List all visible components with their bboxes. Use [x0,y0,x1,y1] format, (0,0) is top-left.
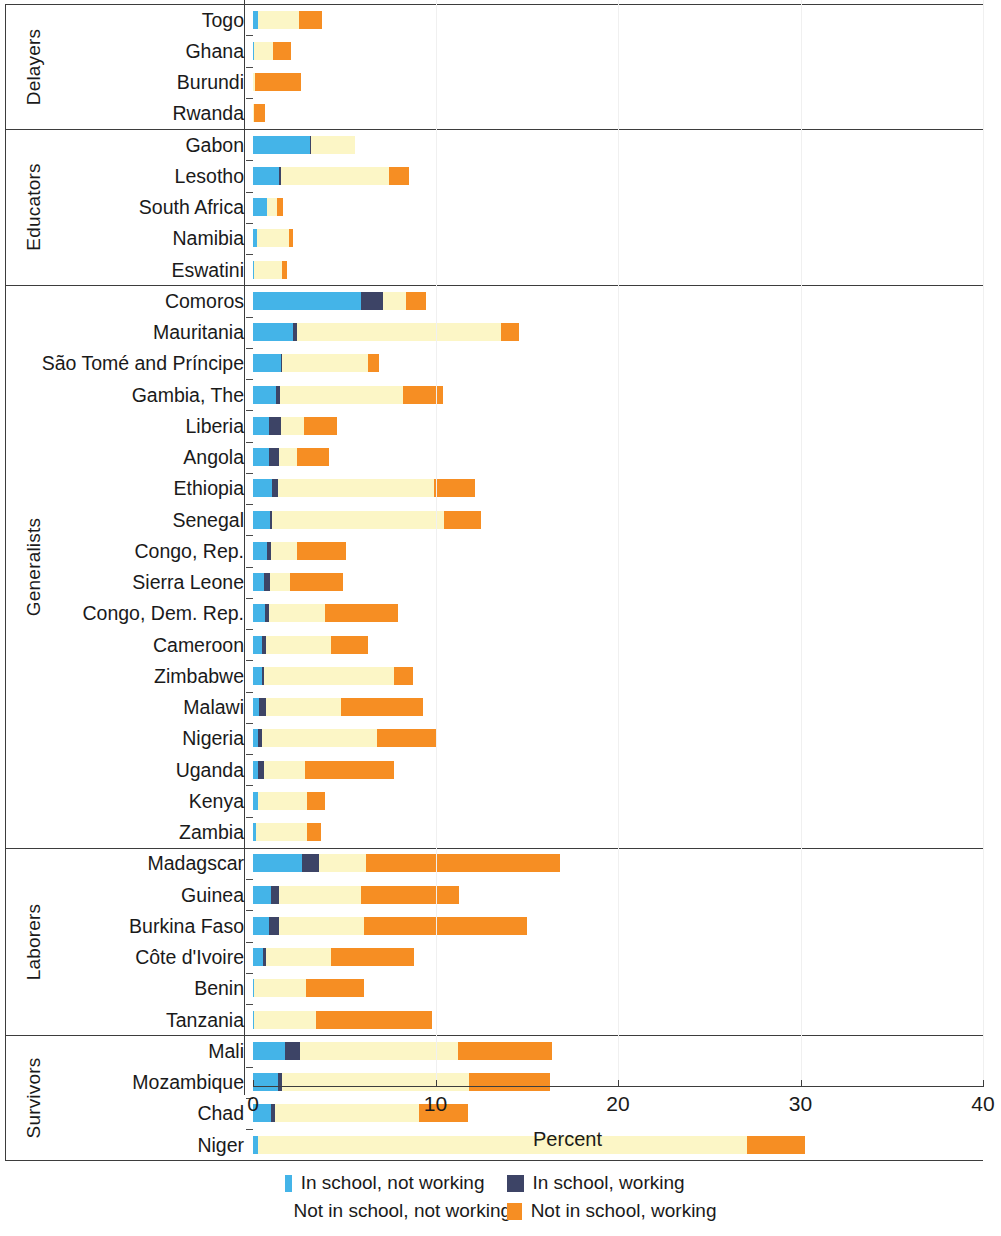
stacked-bar[interactable] [253,1011,432,1029]
stacked-bar[interactable] [253,1073,550,1091]
chart-row[interactable]: Mali [0,1035,1001,1066]
bar-segment [290,573,343,591]
bar-segment [304,417,337,435]
stacked-bar[interactable] [253,323,519,341]
chart-row[interactable]: Sierra Leone [0,567,1001,598]
chart-row[interactable]: Guinea [0,879,1001,910]
chart-row[interactable]: Ghana [0,35,1001,66]
stacked-bar[interactable] [253,11,322,29]
stacked-bar[interactable] [253,573,343,591]
chart-row[interactable]: Côte d'Ivoire [0,942,1001,973]
chart-row[interactable]: Cameroon [0,629,1001,660]
stacked-bar[interactable] [253,667,413,685]
chart-row[interactable]: Malawi [0,692,1001,723]
chart-row[interactable]: Congo, Dem. Rep. [0,598,1001,629]
chart-row[interactable]: Tanzania [0,1004,1001,1035]
stacked-bar[interactable] [253,854,560,872]
stacked-bar[interactable] [253,604,398,622]
stacked-bar[interactable] [253,636,368,654]
chart-row[interactable]: Eswatini [0,254,1001,285]
x-axis-tick [253,1080,254,1087]
stacked-bar[interactable] [253,292,426,310]
bar-segment [262,729,377,747]
chart-row[interactable]: Nigeria [0,723,1001,754]
x-axis-tick-label: 0 [247,1092,259,1116]
chart-row[interactable]: Mozambique [0,1067,1001,1098]
legend-item-in-school-working[interactable]: In school, working [507,1172,717,1194]
bar-segment [279,886,361,904]
stacked-bar[interactable] [253,823,321,841]
bar-segment [253,354,281,372]
stacked-bar[interactable] [253,198,283,216]
bar-segment [311,136,355,154]
chart-row[interactable]: Burkina Faso [0,910,1001,941]
legend-item-in-school-not-working[interactable]: In school, not working [285,1172,485,1194]
category-label: Ghana [185,41,244,61]
legend-item-not-in-school-not-working[interactable]: Not in school, not working [285,1200,485,1222]
stacked-bar[interactable] [253,136,355,154]
stacked-bar[interactable] [253,542,346,560]
stacked-bar[interactable] [253,979,364,997]
stacked-bar[interactable] [253,73,301,91]
stacked-bar[interactable] [253,386,443,404]
chart-row[interactable]: Togo [0,4,1001,35]
legend-label: In school, working [533,1172,685,1194]
category-label: Kenya [189,791,244,811]
chart-row[interactable]: Lesotho [0,160,1001,191]
chart-row[interactable]: Gabon [0,129,1001,160]
stacked-bar[interactable] [253,417,337,435]
chart-row[interactable]: Uganda [0,754,1001,785]
stacked-bar[interactable] [253,511,481,529]
bar-segment [297,448,329,466]
category-label: Burkina Faso [129,916,244,936]
stacked-bar[interactable] [253,761,394,779]
category-axis-tick [246,442,253,443]
chart-row[interactable]: Rwanda [0,98,1001,129]
chart-row[interactable]: Congo, Rep. [0,535,1001,566]
chart-row[interactable]: Madagscar [0,848,1001,879]
chart-row[interactable]: Mauritania [0,317,1001,348]
stacked-bar[interactable] [253,354,379,372]
stacked-bar[interactable] [253,948,414,966]
chart-row[interactable]: Benin [0,973,1001,1004]
chart-row[interactable]: Namibia [0,223,1001,254]
chart-row[interactable]: Angola [0,442,1001,473]
chart-row[interactable]: Ethiopia [0,473,1001,504]
chart-row[interactable]: Kenya [0,785,1001,816]
stacked-bar[interactable] [253,698,423,716]
chart-row[interactable]: Senegal [0,504,1001,535]
stacked-bar[interactable] [253,42,291,60]
stacked-bar[interactable] [253,729,437,747]
chart-row[interactable]: Comoros [0,285,1001,316]
bar-segment [444,511,481,529]
stacked-bar[interactable] [253,261,287,279]
bar-segment [253,198,267,216]
group-column-border [5,4,6,1160]
legend-item-not-in-school-working[interactable]: Not in school, working [507,1200,717,1222]
stacked-bar[interactable] [253,229,293,247]
bar-segment [253,542,267,560]
chart-row[interactable]: Gambia, The [0,379,1001,410]
chart-row[interactable]: Liberia [0,410,1001,441]
chart-row[interactable]: Zambia [0,817,1001,848]
chart-row[interactable]: Chad [0,1098,1001,1129]
chart-row[interactable]: Burundi [0,67,1001,98]
stacked-bar[interactable] [253,167,409,185]
bar-segment [254,104,265,122]
category-axis-tick [246,160,253,161]
chart-row[interactable]: São Tomé and Príncipe [0,348,1001,379]
chart-row[interactable]: Zimbabwe [0,660,1001,691]
stacked-bar[interactable] [253,448,329,466]
stacked-bar[interactable] [253,792,325,810]
x-axis-title-text: Percent [533,1128,602,1151]
stacked-bar[interactable] [253,1042,552,1060]
stacked-bar[interactable] [253,917,527,935]
legend: In school, not working In school, workin… [0,1172,1001,1222]
stacked-bar[interactable] [253,104,265,122]
x-axis-title: Percent [0,1128,1001,1151]
chart-row[interactable]: South Africa [0,192,1001,223]
bar-segment [280,386,402,404]
stacked-bar[interactable] [253,479,475,497]
bar-segment [266,636,331,654]
stacked-bar[interactable] [253,886,459,904]
